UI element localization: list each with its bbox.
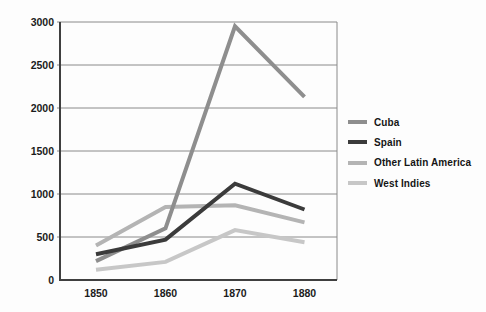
y-tick-label: 2500 [31,59,55,71]
legend-swatch-other-latin-america [348,161,367,165]
legend-item-other-latin-america: Other Latin America [348,153,471,173]
legend-swatch-cuba [348,120,367,124]
y-tick-label: 500 [36,231,54,243]
series-line-cuba [96,26,305,261]
legend-label-spain: Spain [374,137,402,148]
x-tick-label: 1850 [84,287,108,299]
legend: CubaSpainOther Latin AmericaWest Indies [348,112,471,193]
legend-swatch-spain [348,140,367,144]
legend-label-west-indies: West Indies [374,178,431,189]
legend-item-spain: Spain [348,132,471,152]
y-tick-label: 1500 [31,145,55,157]
y-tick-label: 2000 [31,102,55,114]
legend-item-west-indies: West Indies [348,173,471,193]
x-tick-label: 1860 [154,287,178,299]
legend-item-cuba: Cuba [348,112,471,132]
x-tick-label: 1880 [293,287,317,299]
series-line-west-indies [96,230,305,270]
legend-label-cuba: Cuba [374,117,399,128]
chart-figure: 0500100015002000250030001850186018701880… [0,0,486,312]
y-tick-label: 3000 [31,16,55,28]
y-tick-label: 0 [48,274,54,286]
y-tick-label: 1000 [31,188,55,200]
legend-label-other-latin-america: Other Latin America [374,157,471,168]
x-tick-label: 1870 [223,287,247,299]
legend-swatch-west-indies [348,181,367,185]
